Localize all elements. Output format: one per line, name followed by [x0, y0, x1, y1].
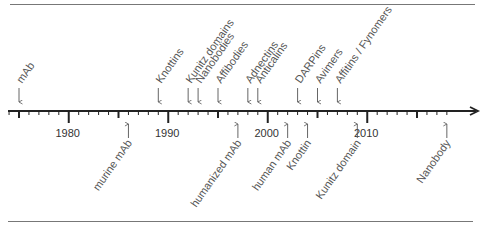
event-label: Nanobody	[414, 137, 453, 185]
event-label: Affitins / Fynomers	[332, 3, 394, 85]
event-below: murine mAb	[90, 124, 134, 193]
event-below: Nanobody	[414, 124, 453, 185]
timeline-diagram: 1980199020002010 mAbKnottinsKunitz domai…	[0, 0, 486, 226]
year-label: 1990	[155, 127, 179, 139]
timeline-axis: 1980199020002010	[8, 107, 478, 139]
event-label: Knottins	[153, 45, 186, 85]
year-label: 1980	[56, 127, 80, 139]
year-label: 2000	[255, 127, 279, 139]
event-label: Kunitz domain	[313, 137, 363, 201]
above-axis-events: mAbKnottinsKunitz domainsNanobodiesAffib…	[14, 3, 395, 102]
event-label: mAb	[14, 60, 37, 85]
event-label: humanized mAb	[188, 137, 243, 209]
event-below: humanized mAb	[188, 124, 243, 209]
event-above: mAb	[14, 60, 37, 102]
event-above: Knottins	[153, 45, 186, 102]
event-label: murine mAb	[90, 137, 134, 192]
